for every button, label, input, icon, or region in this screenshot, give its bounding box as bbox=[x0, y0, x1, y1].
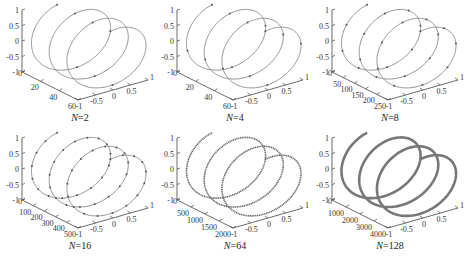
z-tick-label: 0.5 bbox=[164, 150, 174, 159]
sample-marker bbox=[92, 21, 94, 23]
sample-marker bbox=[122, 154, 124, 156]
sample-marker bbox=[247, 21, 249, 23]
x-tick-label: -1 bbox=[386, 230, 393, 239]
depth-tick-label: 40 bbox=[49, 93, 57, 102]
depth-tick-label: 0 bbox=[18, 69, 22, 78]
x-tick-label: -0.5 bbox=[400, 225, 413, 234]
x-tick-label: 0 bbox=[267, 92, 271, 101]
sample-marker bbox=[76, 66, 78, 68]
x-tick-label: -1 bbox=[76, 230, 83, 239]
sample-marker bbox=[141, 161, 143, 163]
x-tick-label: 1 bbox=[150, 73, 154, 82]
sample-marker bbox=[411, 48, 413, 50]
sample-marker bbox=[56, 132, 58, 134]
sample-marker bbox=[204, 59, 206, 61]
sample-marker bbox=[363, 33, 365, 35]
sample-marker bbox=[393, 85, 395, 87]
sample-marker bbox=[143, 182, 145, 184]
caption-variable: N bbox=[224, 240, 231, 251]
panel-caption: N=8 bbox=[360, 112, 420, 123]
sample-marker bbox=[126, 173, 128, 175]
sample-marker bbox=[359, 59, 361, 61]
panel-caption: N=4 bbox=[205, 112, 265, 123]
sample-marker bbox=[67, 195, 69, 197]
sample-marker bbox=[375, 76, 377, 78]
sample-marker bbox=[49, 187, 51, 189]
sample-marker bbox=[86, 137, 88, 139]
x-tick-label: 0.5 bbox=[127, 215, 137, 224]
sample-marker bbox=[402, 21, 404, 23]
sample-marker bbox=[104, 146, 106, 148]
sample-marker bbox=[419, 30, 421, 32]
x-tick-label: 1 bbox=[150, 201, 154, 210]
sample-marker bbox=[65, 204, 67, 206]
x-tick-label: -0.5 bbox=[400, 97, 413, 106]
depth-tick-label: 500 bbox=[64, 230, 76, 239]
sample-marker bbox=[266, 84, 268, 86]
sample-marker bbox=[381, 42, 383, 44]
sample-marker bbox=[79, 206, 81, 208]
sample-marker bbox=[136, 194, 138, 196]
sample-marker bbox=[74, 13, 76, 15]
helix-plot: 10.50-0.5-1050100150200250-1-0.500.51 bbox=[310, 0, 468, 128]
sample-marker bbox=[231, 66, 233, 68]
sample-marker bbox=[455, 42, 457, 44]
z-tick-label: -0.5 bbox=[161, 53, 174, 62]
sample-marker bbox=[53, 161, 55, 163]
depth-tick-label: 0 bbox=[173, 69, 177, 78]
depth-tick-label: 250 bbox=[374, 102, 386, 111]
x-tick-label: -0.5 bbox=[245, 97, 258, 106]
depth-tick-label: 20 bbox=[186, 83, 194, 92]
z-tick-label: -0.5 bbox=[161, 181, 174, 190]
z-tick-label: 0.5 bbox=[164, 22, 174, 31]
sample-marker bbox=[94, 75, 96, 77]
sample-marker bbox=[133, 155, 135, 157]
z-tick-label: 0 bbox=[325, 165, 329, 174]
z-tick-label: 1 bbox=[325, 134, 329, 143]
sample-marker bbox=[83, 213, 85, 215]
z-tick-label: 0.5 bbox=[319, 22, 329, 31]
helix-plot: 10.50-0.5-10204060-1-0.500.51 bbox=[0, 0, 158, 128]
sample-marker bbox=[384, 13, 386, 15]
sample-marker bbox=[109, 153, 111, 155]
sample-marker bbox=[408, 10, 410, 12]
x-tick-label: -1 bbox=[231, 230, 238, 239]
sample-marker bbox=[229, 13, 231, 15]
helix-plot: 10.50-0.5-10100200300400500-1-0.500.51 bbox=[0, 128, 158, 256]
sample-marker bbox=[108, 164, 110, 166]
sample-marker bbox=[437, 34, 439, 36]
panel-n4: 10.50-0.5-10204060-1-0.500.51N=4 bbox=[155, 0, 313, 128]
sample-marker bbox=[48, 195, 50, 197]
sample-marker bbox=[94, 203, 96, 205]
sample-marker bbox=[31, 165, 33, 167]
depth-tick-label: 400 bbox=[53, 224, 65, 233]
x-tick-label: 1 bbox=[305, 73, 309, 82]
caption-value: =128 bbox=[383, 240, 404, 251]
caption-variable: N bbox=[71, 112, 78, 123]
sample-marker bbox=[56, 4, 58, 6]
z-tick-label: 0.5 bbox=[9, 150, 19, 159]
x-tick-label: -1 bbox=[386, 102, 393, 111]
x-tick-label: 0.5 bbox=[127, 87, 137, 96]
sample-marker bbox=[62, 149, 64, 151]
z-tick-label: 0.5 bbox=[9, 22, 19, 31]
depth-tick-label: 200 bbox=[363, 96, 375, 105]
sample-marker bbox=[92, 149, 94, 151]
sample-marker bbox=[145, 170, 147, 172]
z-tick-label: -0.5 bbox=[6, 53, 19, 62]
depth-tick-label: 150 bbox=[352, 91, 364, 100]
panel-n2: 10.50-0.5-10204060-1-0.500.51N=2 bbox=[0, 0, 158, 128]
sample-marker bbox=[98, 138, 100, 140]
sample-marker bbox=[31, 178, 33, 180]
helix-plot: 10.50-0.5-10204060-1-0.500.51 bbox=[155, 0, 313, 128]
sample-marker bbox=[211, 4, 213, 6]
sample-marker bbox=[76, 194, 78, 196]
sample-marker bbox=[66, 183, 68, 185]
z-tick-label: 0 bbox=[15, 165, 19, 174]
helix-plot: 10.50-0.5-101000200030004000-1-0.500.51 bbox=[310, 128, 468, 256]
sample-marker bbox=[421, 84, 423, 86]
x-tick-label: 0 bbox=[422, 220, 426, 229]
sample-marker bbox=[55, 197, 57, 199]
x-tick-label: 0.5 bbox=[437, 87, 447, 96]
sample-marker bbox=[74, 141, 76, 143]
